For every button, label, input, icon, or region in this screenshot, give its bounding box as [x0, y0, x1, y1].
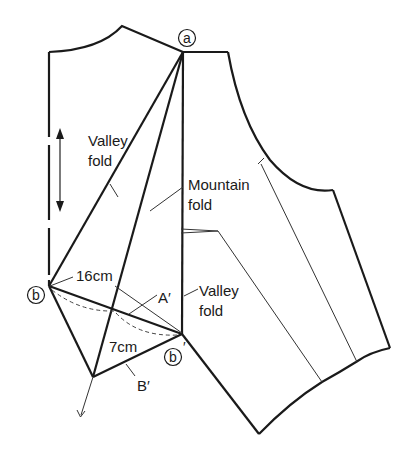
mountain-fold-line	[93, 52, 183, 377]
point-b-marker: b	[28, 287, 45, 304]
leader-valley-1	[110, 184, 118, 197]
point-b-prime-label: b	[169, 349, 177, 365]
a-prime-label: A′	[158, 289, 171, 306]
inner-line-2	[261, 164, 357, 362]
measure-16cm-label: 16cm	[76, 267, 113, 284]
direction-arrow-line	[81, 377, 93, 415]
armhole-curve	[228, 52, 333, 191]
point-b-prime-marker: b ′	[165, 339, 187, 366]
valley-fold-line-1	[49, 52, 183, 286]
valley-fold-line-2	[182, 52, 183, 334]
text-labels: Valley fold Mountain fold Valley fold 16…	[76, 132, 250, 394]
pattern-diagram: a b b ′ Valley fold Mountain fold Valley…	[0, 0, 409, 450]
leader-mountain	[150, 187, 183, 211]
neckline	[49, 26, 183, 52]
side-seam	[333, 190, 390, 348]
mountain-fold-label: Mountain	[188, 176, 250, 193]
leader-A-prime	[129, 295, 157, 314]
valley-fold-1-label: Valley	[88, 132, 128, 149]
left-front-piece	[49, 26, 183, 286]
b-prime-upper-label: B′	[137, 377, 150, 394]
hem-line	[259, 348, 390, 434]
point-a-marker: a	[179, 30, 196, 47]
measure-7cm-label: 7cm	[109, 338, 137, 355]
mountain-fold-label-2: fold	[188, 196, 212, 213]
16cm-measure-line	[115, 286, 182, 333]
lower-edge	[182, 334, 259, 434]
right-piece	[181, 52, 390, 434]
point-b-prime-mark: ′	[183, 339, 186, 355]
grainline-arrow-icon	[56, 128, 64, 212]
valley-fold-2-label-2: fold	[199, 302, 223, 319]
valley-fold-2-label: Valley	[199, 282, 239, 299]
inner-line-1-tick	[181, 231, 218, 233]
arc-b-to-A-prime	[52, 290, 114, 311]
point-b-label: b	[32, 287, 40, 303]
leader-B-prime	[126, 364, 135, 376]
leader-valley-2	[184, 289, 198, 296]
inner-line-2-tick	[258, 158, 264, 164]
point-a-label: a	[183, 30, 191, 46]
valley-fold-1-label-2: fold	[88, 152, 112, 169]
